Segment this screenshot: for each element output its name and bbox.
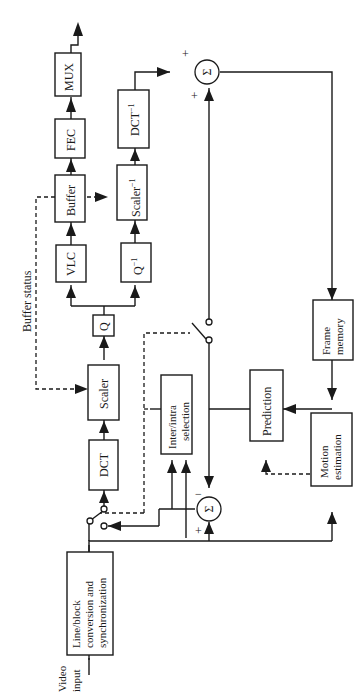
svg-text:Scaler: Scaler: [97, 379, 111, 409]
motion-estimation-block: Motion estimation: [311, 413, 352, 486]
svg-text:Line/block: Line/block: [70, 600, 82, 648]
svg-text:Inter/intra: Inter/intra: [166, 405, 178, 449]
vlc-block: VLC: [56, 245, 86, 282]
scaler-inverse-block: Scaler−1: [117, 165, 147, 220]
buffer-status-label: Buffer status: [20, 270, 34, 332]
dct-inverse-block: DCT−1: [118, 90, 149, 148]
buffer-block: Buffer: [55, 175, 85, 222]
svg-text:Motion: Motion: [318, 445, 330, 478]
svg-text:selection: selection: [179, 401, 191, 441]
inter-intra-selection-block: Inter/intra selection: [161, 375, 192, 454]
mux-block: MUX: [55, 53, 81, 96]
svg-text:Prediction: Prediction: [260, 387, 274, 436]
svg-text:estimation: estimation: [331, 434, 343, 480]
svg-text:Σ: Σ: [200, 68, 214, 75]
q-inverse-block: Q−1: [121, 243, 151, 282]
video-input-label-2: input: [70, 669, 82, 692]
top-summing-node: Σ + +: [182, 47, 219, 103]
video-input-label-1: Video: [56, 665, 68, 692]
svg-text:MUX: MUX: [62, 63, 76, 91]
svg-text:Q: Q: [97, 322, 111, 331]
recon-to-frame-memory: [220, 72, 332, 300]
svg-text:DCT: DCT: [97, 452, 111, 477]
q-block: Q: [93, 315, 114, 336]
encoder-block-diagram: Line/block conversion and synchronizatio…: [0, 0, 362, 697]
fec-block: FEC: [55, 119, 85, 158]
svg-text:Frame: Frame: [320, 327, 332, 355]
frame-memory-block: Frame memory: [313, 300, 353, 360]
scaler-block: Scaler: [88, 365, 119, 420]
svg-text:−: −: [195, 487, 202, 501]
line-block-conversion-block: Line/block conversion and synchronizatio…: [67, 552, 113, 655]
svg-text:Buffer: Buffer: [64, 185, 78, 216]
switch-upper-blade: [192, 323, 206, 339]
svg-text:+: +: [182, 47, 189, 61]
svg-text:Σ: Σ: [202, 505, 216, 512]
svg-text:FEC: FEC: [64, 129, 78, 151]
svg-text:synchronization: synchronization: [96, 577, 108, 648]
prediction-block: Prediction: [250, 370, 283, 441]
svg-text:conversion and: conversion and: [83, 581, 95, 648]
svg-text:+: +: [195, 524, 202, 538]
dct-block: DCT: [89, 440, 118, 490]
svg-text:+: +: [191, 89, 198, 103]
svg-text:VLC: VLC: [64, 252, 78, 276]
svg-text:memory: memory: [333, 318, 345, 355]
